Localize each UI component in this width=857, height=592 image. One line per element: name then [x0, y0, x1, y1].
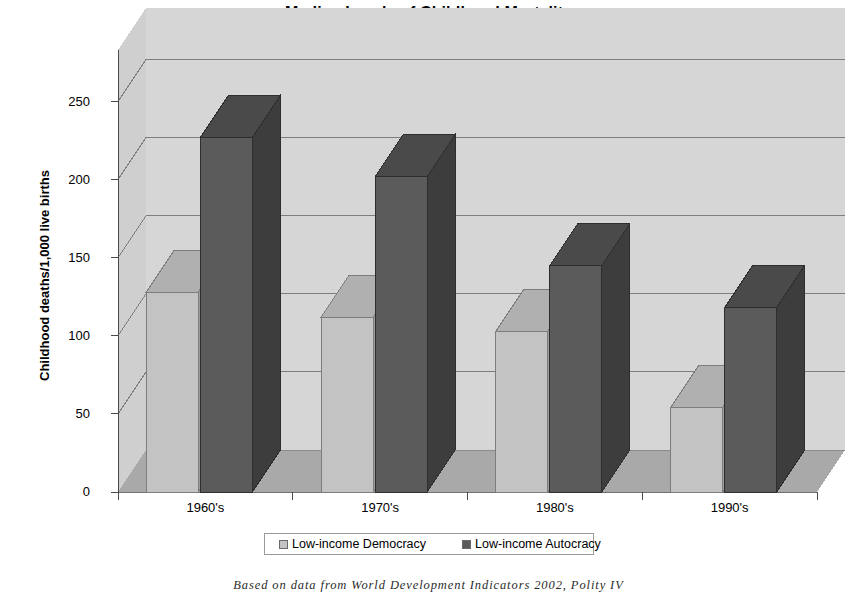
x-category-label-1970s: 1970's [293, 500, 468, 515]
bar-face [725, 308, 777, 492]
bar-face [321, 317, 373, 492]
legend-swatch-icon [279, 540, 288, 549]
bar-1980s-series1 [550, 224, 630, 492]
bar-face [200, 137, 252, 492]
bar-face [375, 177, 427, 492]
legend-swatch-icon [462, 540, 471, 549]
bar-face [671, 408, 723, 492]
y-axis-title: Childhood deaths/1,000 live births [37, 136, 52, 416]
bar-face [252, 95, 280, 492]
y-tick-label-250: 250 [44, 94, 90, 109]
legend-label: Low-income Democracy [292, 537, 426, 551]
x-category-label-1960s: 1960's [118, 500, 293, 515]
legend-entry-democracy: Low-income Democracy [279, 537, 426, 551]
legend-entry-autocracy: Low-income Autocracy [462, 537, 601, 551]
bar-face [550, 266, 602, 492]
bar-face [146, 292, 198, 492]
bar-face [496, 331, 548, 492]
chart-figure: Median Levels of Childhood Mortality 050… [0, 0, 857, 592]
x-category-label-1980s: 1980's [468, 500, 643, 515]
bar-1960s-series1 [200, 95, 280, 492]
bar-1990s-series1 [725, 266, 805, 492]
y-tick-label-0: 0 [44, 484, 90, 499]
x-category-label-1990s: 1990's [642, 500, 817, 515]
chart-legend: Low-income DemocracyLow-income Autocracy [264, 533, 594, 555]
bar-1970s-series1 [375, 135, 455, 492]
bar-face [427, 135, 455, 492]
plot-area: 050100150200250 Childhood deaths/1,000 l… [0, 0, 857, 592]
bar-face [602, 224, 630, 492]
legend-label: Low-income Autocracy [475, 537, 601, 551]
figure-caption: Based on data from World Development Ind… [0, 578, 857, 592]
